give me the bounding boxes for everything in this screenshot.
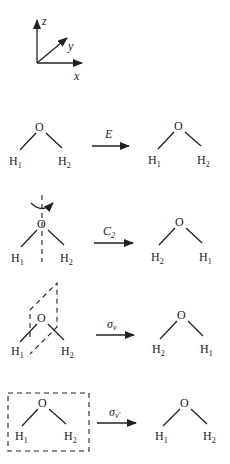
operation-symbol: σv' — [109, 405, 120, 420]
hydrogen-right: H2 — [61, 344, 74, 360]
hydrogen-left: H2 — [152, 342, 165, 358]
x-axis-label: x — [73, 69, 80, 83]
hydrogen-right: H1 — [199, 250, 212, 266]
hydrogen-left: H1 — [11, 344, 24, 360]
molecule-after: O H1 H2 — [148, 119, 210, 169]
oxygen-atom: O — [174, 119, 183, 133]
hydrogen-right: H1 — [200, 342, 213, 358]
hydrogen-right: H2 — [203, 429, 216, 445]
hydrogen-left: H1 — [15, 429, 28, 445]
operation-row-identity: O H1 H2 E O H1 H2 — [9, 119, 210, 170]
operation-row-sigma-v-prime: O H1 H2 σv' O H1 H2 — [8, 393, 216, 451]
operation-row-c2: O H1 H2 C2 O H2 H1 — [11, 195, 212, 267]
symmetry-operations-diagram: z y x O H1 H2 E O H1 H2 O H1 — [0, 0, 230, 464]
operation-symbol: C2 — [103, 224, 115, 240]
hydrogen-right: H2 — [58, 154, 71, 170]
hydrogen-left: H1 — [155, 429, 168, 445]
molecule-after: O H1 H2 — [155, 396, 216, 445]
oxygen-atom: O — [175, 215, 184, 229]
y-axis-arrow — [37, 38, 67, 63]
oxygen-atom: O — [37, 311, 46, 325]
hydrogen-left: H2 — [151, 250, 164, 266]
y-axis-label: y — [67, 39, 74, 53]
hydrogen-left: H1 — [11, 251, 24, 267]
hydrogen-right: H2 — [60, 251, 73, 267]
molecule-before: O H1 H2 — [9, 120, 71, 170]
hydrogen-right: H2 — [197, 153, 210, 169]
oxygen-atom: O — [37, 217, 46, 231]
hydrogen-left: H1 — [9, 154, 22, 170]
z-axis-label: z — [41, 14, 47, 28]
oxygen-atom: O — [177, 308, 186, 322]
molecule-before: O H1 H2 — [11, 195, 73, 267]
molecule-after: O H2 H1 — [152, 308, 213, 358]
operation-symbol: σv — [107, 317, 117, 332]
molecule-after: O H2 H1 — [151, 215, 212, 266]
operation-symbol: E — [104, 127, 113, 141]
oxygen-atom: O — [180, 396, 189, 410]
molecule-before: O H1 H2 — [11, 283, 74, 360]
molecule-before: O H1 H2 — [8, 393, 89, 451]
operation-row-sigma-v: O H1 H2 σv O H2 H1 — [11, 283, 213, 360]
coordinate-axes: z y x — [37, 14, 82, 83]
hydrogen-right: H2 — [64, 429, 77, 445]
oxygen-atom: O — [35, 120, 44, 134]
oxygen-atom: O — [38, 396, 47, 410]
hydrogen-left: H1 — [148, 153, 161, 169]
